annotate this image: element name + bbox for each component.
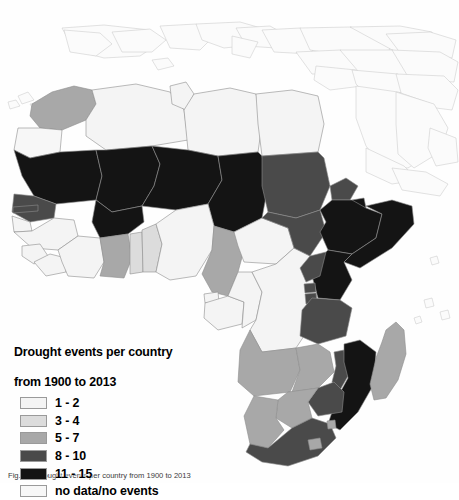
legend-label-8-10: 8 - 10 [55,449,86,463]
country-libya [184,88,262,156]
map-legend: Drought events per country from 1900 to … [14,330,229,500]
country-sudan [262,152,330,218]
country-egypt [256,90,324,156]
legend-item-11-15: 11 - 15 [14,465,229,483]
legend-class-list: 1 - 2 3 - 4 5 - 7 8 - 10 11 - 15 no data… [14,395,229,500]
country-rwanda [304,283,316,293]
legend-swatch-11-15 [20,468,47,480]
country-swaziland [327,420,336,429]
legend-label-5-7: 5 - 7 [55,431,79,445]
legend-item-8-10: 8 - 10 [14,447,229,465]
legend-item-3-4: 3 - 4 [14,412,229,430]
legend-swatch-3-4 [20,415,47,427]
country-lesotho [308,438,322,450]
legend-item-5-7: 5 - 7 [14,430,229,448]
legend-label-3-4: 3 - 4 [55,414,79,428]
legend-swatch-1-2 [20,397,47,409]
country-togo [130,232,143,274]
legend-swatch-no-data [20,485,47,497]
legend-title: Drought events per country from 1900 to … [14,330,229,391]
legend-title-line1: Drought events per country [14,345,173,359]
legend-label-no-data: no data/no events [55,484,159,498]
legend-item-no-data: no data/no events [14,482,229,500]
legend-label-1-2: 1 - 2 [55,396,79,410]
legend-swatch-5-7 [20,432,47,444]
legend-item-1-2: 1 - 2 [14,395,229,413]
legend-title-line2: from 1900 to 2013 [14,375,116,389]
legend-label-11-15: 11 - 15 [55,467,92,481]
legend-swatch-8-10 [20,450,47,462]
